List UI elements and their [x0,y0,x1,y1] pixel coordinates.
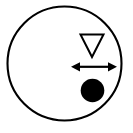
circle-diagram [0,0,133,133]
diagram-canvas [0,0,133,133]
filled-dot [81,79,105,103]
